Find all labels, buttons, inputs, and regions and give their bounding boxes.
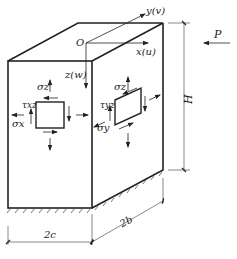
y-axis-label: y(v) xyxy=(145,5,165,16)
side-stress-element xyxy=(94,77,160,147)
height-label: H xyxy=(182,94,195,105)
y-axis-arrow xyxy=(86,14,145,43)
depth-label: 2b xyxy=(117,214,134,230)
front-sigma-z-label: σz' xyxy=(37,81,52,92)
side-tau-yz-label: τyz xyxy=(100,100,115,110)
side-sigma-z-label: σz xyxy=(114,81,127,92)
front-tau-xz-label: τxz xyxy=(22,100,37,110)
dimension-2b xyxy=(92,178,163,242)
width-label: 2c xyxy=(43,229,56,240)
fixed-base-hatching xyxy=(7,172,162,213)
z-axis-label: z(w) xyxy=(64,69,87,80)
side-sigma-y-label: σy xyxy=(97,122,110,133)
load-label: P xyxy=(213,28,222,41)
front-sigma-x-label: σx xyxy=(12,118,25,129)
x-axis-label: x(u) xyxy=(136,46,156,57)
block-diagram: y(v) x(u) z(w) O P H 2c 2b xyxy=(0,0,237,259)
origin-label: O xyxy=(76,37,84,48)
